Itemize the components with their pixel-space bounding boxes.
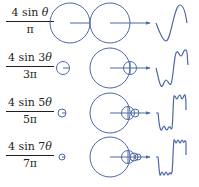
row-2-diagram (57, 48, 189, 88)
waveform-2-terms (156, 50, 188, 86)
single-term-circle-icon (59, 154, 65, 160)
summed-circles-icon (90, 48, 150, 88)
summed-circles-icon (90, 93, 150, 133)
single-term-circle-icon (50, 3, 90, 43)
row-1-diagram (50, 3, 187, 43)
fourier-epicycle-diagram (0, 0, 199, 187)
row-4-diagram (59, 137, 186, 177)
summed-circles-icon (90, 137, 150, 177)
single-term-circle-icon (57, 62, 70, 75)
single-term-circle-icon (58, 109, 66, 117)
row-3-diagram (58, 93, 186, 133)
waveform-4-terms (156, 140, 186, 175)
summed-circles-icon (90, 3, 150, 43)
waveform-1-term (156, 5, 187, 41)
waveform-3-terms (156, 95, 186, 130)
